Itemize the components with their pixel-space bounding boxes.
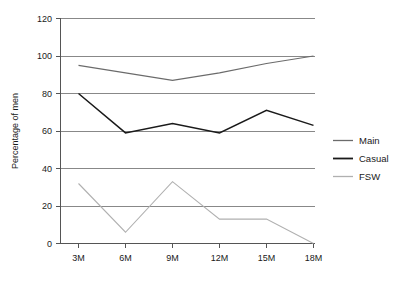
y-tick-label-100: 100: [37, 51, 52, 61]
x-tick-label-18M: 18M: [305, 253, 323, 263]
y-tick-label-120: 120: [37, 14, 52, 24]
y-tick-label-0: 0: [47, 239, 52, 249]
x-tick-label-6M: 6M: [119, 253, 132, 263]
legend-label-casual[interactable]: Casual: [359, 153, 389, 164]
chart-svg: 120 100 80 60 40 20 0 3M 6M 9M 12M 15M 1…: [0, 0, 399, 285]
y-tick-label-40: 40: [42, 164, 52, 174]
legend-label-fsw[interactable]: FSW: [359, 171, 380, 182]
x-tick-label-12M: 12M: [211, 253, 229, 263]
x-tick-label-15M: 15M: [258, 253, 276, 263]
y-tick-label-80: 80: [42, 89, 52, 99]
y-axis-title: Percentage of men: [10, 93, 20, 169]
legend-label-main[interactable]: Main: [359, 135, 380, 146]
x-tick-label-3M: 3M: [72, 253, 85, 263]
x-tick-label-9M: 9M: [166, 253, 179, 263]
chart-background: [0, 0, 399, 285]
y-tick-label-20: 20: [42, 201, 52, 211]
y-tick-label-60: 60: [42, 126, 52, 136]
line-chart: 120 100 80 60 40 20 0 3M 6M 9M 12M 15M 1…: [0, 0, 399, 285]
